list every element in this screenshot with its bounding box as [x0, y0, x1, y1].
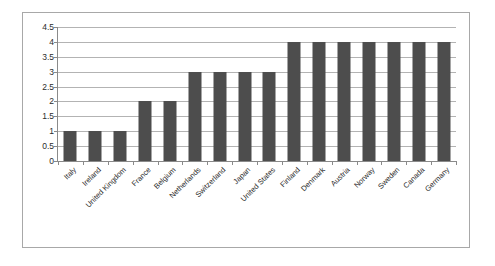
bar-slot	[158, 27, 183, 161]
x-axis-category-label-text: Italy	[63, 166, 78, 181]
bar	[163, 101, 176, 161]
x-axis-tick-mark	[58, 161, 59, 165]
bar	[238, 72, 251, 161]
x-axis-category-label-text: Finland	[279, 166, 302, 189]
bar	[412, 42, 425, 161]
bar	[139, 101, 152, 161]
bar	[288, 42, 301, 161]
y-axis-tick-label: 2	[49, 97, 54, 106]
bar	[89, 131, 102, 161]
bar	[338, 42, 351, 161]
y-axis-tick-label: 0	[49, 157, 54, 166]
x-axis-category-label-text: France	[131, 166, 153, 188]
y-axis-tick-label: 1	[49, 127, 54, 136]
x-axis-tick-mark	[431, 161, 432, 165]
x-axis-category-label-text: Norway	[353, 166, 376, 189]
bar	[387, 42, 400, 161]
x-axis-tick-mark	[332, 161, 333, 165]
x-axis-tick-mark	[232, 161, 233, 165]
bar-slot	[83, 27, 108, 161]
bar	[362, 42, 375, 161]
x-axis-tick-mark	[257, 161, 258, 165]
x-axis-tick-mark	[133, 161, 134, 165]
bar-slot	[58, 27, 83, 161]
bar-slot	[381, 27, 406, 161]
bar-slot	[133, 27, 158, 161]
x-axis-tick-mark	[456, 161, 457, 165]
y-axis-tick-label: 4.5	[42, 23, 54, 32]
x-axis-tick-mark	[207, 161, 208, 165]
x-axis-ticks	[58, 161, 456, 165]
y-axis-tick-label: 3	[49, 67, 54, 76]
bar-chart-figure: 4.543.532.521.510.50 ItalyIrelandUnited …	[22, 12, 470, 248]
bar-slot	[108, 27, 133, 161]
x-axis-tick-mark	[357, 161, 358, 165]
bar	[313, 42, 326, 161]
x-axis-category-label-text: Austria	[330, 166, 352, 188]
y-axis-tick-label: 4	[49, 38, 54, 47]
bar-slot	[307, 27, 332, 161]
bar-slot	[431, 27, 456, 161]
x-axis-tick-mark	[108, 161, 109, 165]
x-axis-category-label-text: Germany	[424, 166, 451, 193]
bar-slot	[207, 27, 232, 161]
bar-slot	[232, 27, 257, 161]
x-axis-tick-mark	[182, 161, 183, 165]
y-axis-tick-label: 0.5	[42, 142, 54, 151]
bar	[213, 72, 226, 161]
x-axis-tick-mark	[83, 161, 84, 165]
bar-slot	[282, 27, 307, 161]
bars-layer	[58, 27, 456, 161]
x-axis-category-label-text: Japan	[232, 166, 252, 186]
x-axis-tick-mark	[406, 161, 407, 165]
bar-slot	[257, 27, 282, 161]
bar	[64, 131, 77, 161]
y-axis-tick-label: 3.5	[42, 53, 54, 62]
x-axis-category-labels: ItalyIrelandUnited KingdomFranceBelgiumN…	[58, 166, 456, 236]
x-axis-tick-mark	[381, 161, 382, 165]
bar	[437, 42, 450, 161]
bar-slot	[182, 27, 207, 161]
bar	[188, 72, 201, 161]
bar	[114, 131, 127, 161]
y-axis-tick-labels: 4.543.532.521.510.50	[24, 27, 54, 161]
bar	[263, 72, 276, 161]
x-axis-tick-mark	[307, 161, 308, 165]
bar-slot	[357, 27, 382, 161]
x-axis-tick-mark	[282, 161, 283, 165]
bar-slot	[406, 27, 431, 161]
x-axis-tick-mark	[158, 161, 159, 165]
x-axis-category-label-text: Ireland	[81, 166, 103, 188]
bar-slot	[332, 27, 357, 161]
x-axis-category-label: Italy	[62, 166, 78, 182]
y-axis-tick-label: 1.5	[42, 112, 54, 121]
plot-area: 4.543.532.521.510.50	[58, 27, 456, 161]
x-axis-category-label-text: Sweden	[377, 166, 401, 190]
y-axis-tick-label: 2.5	[42, 82, 54, 91]
